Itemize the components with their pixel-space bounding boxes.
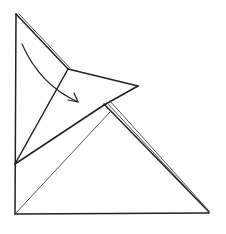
upper-flap-edge (16, 14, 68, 69)
inner-crease-line (15, 69, 68, 164)
flap-lower-edge (15, 105, 104, 164)
diagonal-crease-line (15, 112, 110, 214)
right-edge-inner (110, 101, 209, 211)
diagram-svg (0, 0, 226, 234)
bottom-edge-line (15, 213, 209, 214)
origami-diagram (0, 0, 226, 234)
flap-top-edge (68, 69, 138, 86)
upper-flap-edge-layer (19, 14, 70, 68)
left-edge-line (15, 14, 16, 214)
flap-right-edge (104, 86, 138, 105)
fold-arrow-icon (22, 44, 78, 102)
right-edge-mid (107, 103, 209, 212)
